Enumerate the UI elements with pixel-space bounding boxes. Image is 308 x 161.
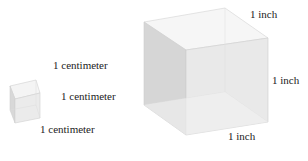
small-cube-bottom-label: 1 centimeter — [40, 124, 95, 135]
large-cube — [144, 8, 268, 135]
large-cube-right-label: 1 inch — [272, 75, 299, 86]
large-cube-bottom-label: 1 inch — [228, 131, 255, 142]
small-cube — [10, 80, 40, 123]
small-cube-right-label: 1 centimeter — [61, 91, 116, 102]
cubes-drawing — [0, 0, 308, 161]
small-cube-top-label: 1 centimeter — [53, 60, 108, 71]
cube-comparison-diagram: 1 centimeter 1 centimeter 1 centimeter 1… — [0, 0, 308, 161]
large-cube-top-label: 1 inch — [250, 9, 277, 20]
